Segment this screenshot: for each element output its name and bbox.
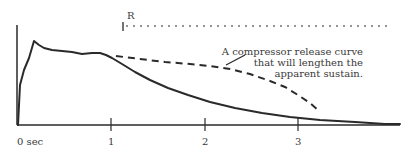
x-label-0: 0 sec — [17, 136, 44, 147]
x-label-1: 1 — [108, 136, 114, 147]
annotation-line-3: apparent sustain. — [274, 68, 363, 79]
x-label-3: 3 — [295, 136, 301, 147]
release-marker-label: R — [127, 10, 135, 21]
annotation-line-2: that will lengthen the — [254, 57, 363, 68]
x-label-2: 2 — [202, 136, 208, 147]
envelope-diagram: 0 sec 1 2 3 A compressor release curve t… — [0, 0, 408, 152]
annotation-line-1: A compressor release curve — [221, 46, 363, 57]
